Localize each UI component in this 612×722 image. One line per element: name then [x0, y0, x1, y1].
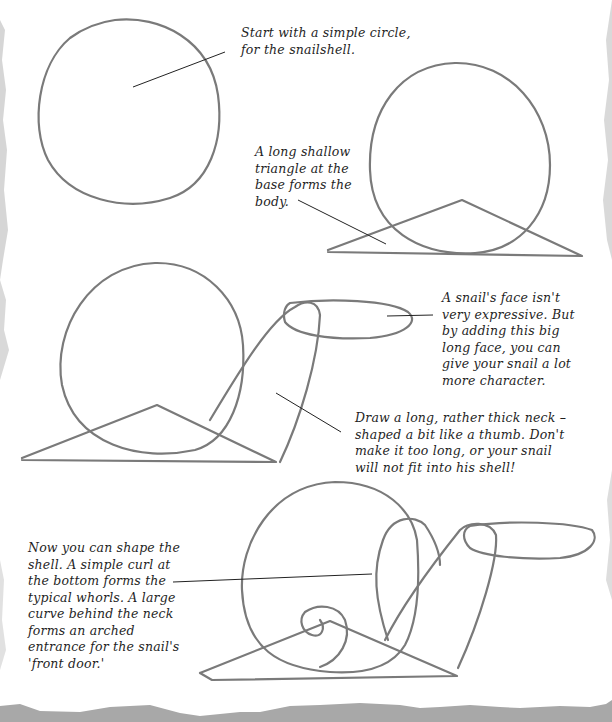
step1-caption: Start with a simple circle, for the snai…: [241, 25, 411, 58]
step4-caption: Now you can shape the shell. A simple cu…: [28, 540, 180, 672]
step3-neck-leader-line: [276, 393, 341, 432]
caption-line: forms an arched: [28, 623, 180, 640]
caption-line: Now you can shape the: [28, 540, 180, 557]
caption-line: shaped a bit like a thumb. Don't: [355, 427, 566, 444]
caption-line: make it too long, or your snail: [355, 443, 566, 460]
caption-line: A long shallow: [255, 144, 352, 161]
step2-caption: A long shallow triangle at the base form…: [255, 144, 352, 210]
caption-line: base forms the: [255, 177, 352, 194]
caption-line: curve behind the neck: [28, 606, 180, 623]
torn-edge-left: [0, 20, 9, 670]
torn-edge-bottom: [0, 700, 612, 722]
caption-line: more character.: [442, 373, 575, 390]
step4-drawing: [200, 482, 595, 680]
step1-drawing: [39, 19, 220, 203]
step4-leader-line: [173, 574, 372, 582]
caption-line: give your snail a lot: [442, 356, 575, 373]
caption-line: long face, you can: [442, 340, 575, 357]
caption-line: by adding this big: [442, 323, 575, 340]
caption-line: A snail's face isn't: [442, 290, 575, 307]
torn-edge-right: [603, 0, 612, 600]
caption-line: triangle at the: [255, 161, 352, 178]
tutorial-page: Start with a simple circle, for the snai…: [0, 0, 612, 722]
step3-face-caption: A snail's face isn't very expressive. Bu…: [442, 290, 575, 389]
caption-line: Draw a long, rather thick neck –: [355, 410, 566, 427]
step3-neck-caption: Draw a long, rather thick neck – shaped …: [355, 410, 566, 476]
caption-line: the bottom forms the: [28, 573, 180, 590]
caption-line: shell. A simple curl at: [28, 557, 180, 574]
step2-drawing: [328, 63, 582, 256]
step3-drawing: [22, 263, 412, 462]
caption-line: 'front door.': [28, 656, 180, 673]
caption-line: body.: [255, 194, 352, 211]
step3-face-leader-line: [387, 315, 433, 316]
caption-line: will not fit into his shell!: [355, 460, 566, 477]
caption-line: typical whorls. A large: [28, 590, 180, 607]
caption-line: entrance for the snail's: [28, 639, 180, 656]
caption-line: Start with a simple circle,: [241, 25, 411, 42]
caption-line: very expressive. But: [442, 307, 575, 324]
caption-line: for the snailshell.: [241, 42, 411, 59]
